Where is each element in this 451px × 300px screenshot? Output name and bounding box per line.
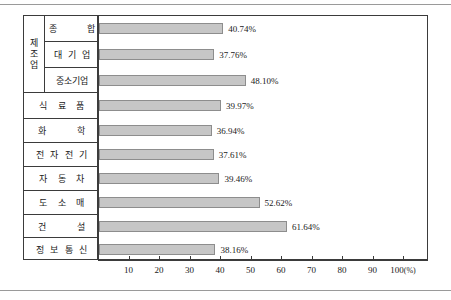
bar-value-electronics: 37.61% [219,150,247,160]
bar-row: 36.94% [99,125,212,136]
bar-retail [99,197,260,208]
x-tick-label-30: 30 [185,265,194,275]
bar-value-construction: 61.64% [292,222,320,232]
x-tick-label-90: 90 [368,265,377,275]
x-tick-label-40: 40 [216,265,225,275]
bar-value-jungsogieop: 48.10% [251,76,279,86]
bar-electronics [99,149,214,160]
category-label-daegieop: 대 기 업 [45,42,99,68]
category-label-jungsogieop: 중소기업 [45,68,99,93]
x-axis-line [98,260,428,261]
bar-value-infocomm: 38.16% [220,245,248,255]
bar-value-food: 39.97% [226,101,254,111]
bar-value-jonghap: 40.74% [228,24,256,34]
bar-row: 40.74% [99,23,223,34]
bar-row: 61.64% [99,221,287,232]
bar-row: 37.61% [99,149,214,160]
category-label-electronics: 전 자 전 기 [24,143,99,167]
bar-food [99,100,221,111]
x-tick-label-100-number: 100 [390,265,404,275]
bar-automobile [99,173,219,184]
bar-row: 48.10% [99,75,246,86]
x-tick-50 [251,256,252,261]
group-label-char-3: 업 [30,60,38,71]
bar-chemical [99,125,212,136]
x-tick-label-10: 10 [124,265,133,275]
x-tick-label-100: 100(%) [390,265,416,275]
x-tick-label-70: 70 [307,265,316,275]
horizontal-bar-chart: 제 조 업 종 합 대 기 업 중소기업 식 료 품 화 학 전 자 전 기 자… [23,15,428,260]
x-tick-label-50: 50 [246,265,255,275]
bar-value-daegieop: 37.76% [219,50,247,60]
x-axis: 10 20 30 40 50 60 70 80 90 100(%) [98,260,428,300]
page-rule-top [0,4,451,5]
bar-row: 38.16% [99,244,215,255]
bar-jonghap [99,23,223,34]
x-tick-20 [159,256,160,261]
category-label-chemical: 화 학 [24,119,99,143]
group-label-char-1: 제 [30,38,38,49]
bar-row: 37.76% [99,49,214,60]
group-label-char-2: 조 [30,49,38,60]
x-tick-60 [281,256,282,261]
x-tick-30 [190,256,191,261]
bar-jungsogieop [99,75,246,86]
bar-value-automobile: 39.46% [224,174,252,184]
category-label-retail: 도 소 매 [24,191,99,215]
x-tick-80 [342,256,343,261]
x-tick-40 [220,256,221,261]
bar-row: 52.62% [99,197,260,208]
x-tick-70 [312,256,313,261]
bar-infocomm [99,244,215,255]
x-tick-label-20: 20 [155,265,164,275]
x-tick-label-60: 60 [277,265,286,275]
bar-row: 39.97% [99,100,221,111]
category-label-automobile: 자 동 차 [24,167,99,191]
x-tick-100 [403,256,404,261]
x-axis-unit-label: (%) [404,266,416,275]
category-label-construction: 건 설 [24,215,99,238]
plot-area: 40.74% 37.76% 48.10% 39.97% 36.94% 37.61… [98,15,428,260]
x-tick-10 [129,256,130,261]
category-label-table: 제 조 업 종 합 대 기 업 중소기업 식 료 품 화 학 전 자 전 기 자… [23,15,98,260]
bar-daegieop [99,49,214,60]
x-tick-label-80: 80 [338,265,347,275]
category-label-jonghap: 종 합 [45,16,99,42]
x-tick-90 [373,256,374,261]
category-label-infocomm: 정 보 통 신 [24,238,99,261]
bar-construction [99,221,287,232]
bar-value-chemical: 36.94% [217,126,245,136]
bar-value-retail: 52.62% [265,198,293,208]
bar-row: 39.46% [99,173,219,184]
category-label-food: 식 료 품 [24,93,99,119]
